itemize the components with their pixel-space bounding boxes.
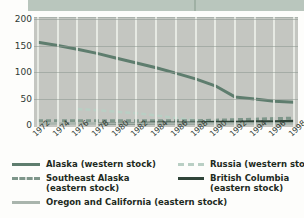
chart-legend: Alaska (western stock)Russia (western st… [0, 157, 304, 213]
legend-label[interactable]: Southeast Alaska [46, 173, 129, 183]
plot-top-border [34, 17, 298, 18]
line-chart [0, 12, 304, 132]
gridline-horizontal [34, 46, 298, 47]
legend-swatch [178, 177, 204, 180]
gridline-horizontal [34, 19, 298, 20]
legend-swatch [12, 177, 40, 180]
legend-swatch [178, 163, 204, 166]
legend-swatch [12, 163, 40, 166]
gridline-horizontal [34, 72, 298, 73]
x-axis-labels: 1972197419761978198019821984198619881990… [0, 130, 304, 156]
legend-label[interactable]: Oregon and California (eastern stock) [46, 197, 227, 207]
scanned-header-band [28, 0, 304, 11]
legend-label[interactable]: Russia (western stock) [210, 159, 304, 169]
legend-label[interactable]: Alaska (western stock) [46, 159, 156, 169]
legend-label[interactable]: British Columbia [210, 173, 289, 183]
legend-label-line2: (eastern stock) [210, 183, 283, 193]
legend-swatch [12, 201, 40, 204]
plot-area [34, 17, 298, 127]
scan-seam [194, 0, 196, 11]
gridline-horizontal [34, 99, 298, 100]
legend-label-line2: (eastern stock) [46, 183, 119, 193]
chart-page: 050100150200 197219741976197819801982198… [0, 0, 304, 218]
